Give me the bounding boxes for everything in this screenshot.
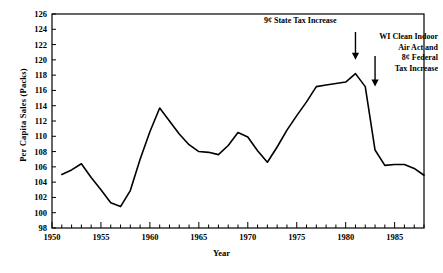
y-tick-label: 100 [23,208,47,218]
chart-figure: Per Capita Sales (Packs) Year 9810010210… [0,0,443,273]
annotation-state-tax-increase: 9¢ State Tax Increase [264,16,337,27]
x-tick-label: 1960 [130,232,170,242]
y-tick-label: 104 [23,177,47,187]
y-tick-label: 126 [23,9,47,19]
x-tick-label: 1950 [32,232,72,242]
y-tick-label: 102 [23,192,47,202]
x-tick-label: 1980 [326,232,366,242]
x-tick-label: 1970 [228,232,268,242]
x-axis-ticks [52,222,424,228]
y-tick-label: 112 [23,116,47,126]
y-tick-label: 120 [23,55,47,65]
annotation-line-3: 8¢ Federal [352,53,438,64]
y-tick-label: 124 [23,24,47,34]
y-tick-label: 114 [23,101,47,111]
x-tick-label: 1985 [375,232,415,242]
y-tick-label: 108 [23,147,47,157]
data-line-series-1 [62,74,424,207]
annotation-line-2: Air Act and [352,43,438,54]
annotation-line-4: Tax Increase [352,64,438,75]
annotation-line-1: WI Clean Indoor [352,32,438,43]
annotation-clean-indoor-air-act: WI Clean Indoor Air Act and 8¢ Federal T… [352,32,438,74]
y-tick-label: 106 [23,162,47,172]
x-tick-label: 1955 [81,232,121,242]
x-axis-title: Year [0,248,443,258]
x-tick-label: 1965 [179,232,219,242]
y-tick-label: 110 [23,131,47,141]
y-tick-label: 122 [23,40,47,50]
x-tick-label: 1975 [277,232,317,242]
y-tick-label: 116 [23,85,47,95]
y-tick-label: 118 [23,70,47,80]
